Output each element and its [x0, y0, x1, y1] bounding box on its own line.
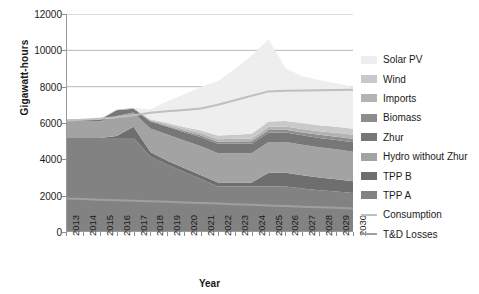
legend-item-tpp-a[interactable]: TPP A [361, 186, 479, 205]
x-tick-label: 2015 [104, 215, 115, 236]
legend-line-icon [361, 233, 377, 235]
x-tick-label: 2023 [239, 215, 250, 236]
legend-label: Consumption [383, 209, 442, 220]
legend-label: T&D Losses [383, 229, 437, 240]
legend-item-imports[interactable]: Imports [361, 89, 479, 108]
x-tick-label: 2020 [188, 215, 199, 236]
legend-label: Biomass [383, 112, 421, 123]
x-tick-label: 2014 [87, 215, 98, 236]
y-tick-label: 4000 [40, 154, 62, 165]
x-tick-label: 2017 [138, 215, 149, 236]
y-tick-label: 6000 [40, 118, 62, 129]
legend-swatch-icon [361, 172, 377, 180]
x-axis-tick-labels: 2013201420152016201720182019202020212022… [66, 236, 353, 280]
y-tick-mark [62, 87, 66, 88]
y-tick-mark [62, 159, 66, 160]
y-tick-label: 8000 [40, 81, 62, 92]
x-tick-label: 2024 [256, 215, 267, 236]
legend-swatch-icon [361, 75, 377, 83]
legend-label: Wind [383, 74, 406, 85]
legend-line-icon [361, 214, 377, 216]
legend-item-tpp-b[interactable]: TPP B [361, 166, 479, 185]
legend-swatch-icon [361, 56, 377, 64]
x-tick-label: 2029 [340, 215, 351, 236]
legend-item-t-d-losses[interactable]: T&D Losses [361, 225, 479, 244]
y-tick-mark [62, 196, 66, 197]
legend-label: TPP A [383, 190, 411, 201]
chart-legend: Solar PVWindImportsBiomassZhurHydro with… [361, 50, 479, 244]
legend-swatch-icon [361, 133, 377, 141]
legend-swatch-icon [361, 153, 377, 161]
legend-label: Hydro without Zhur [383, 151, 467, 162]
chart-container: Gigawatt-hours 0200040006000800010000120… [0, 0, 479, 294]
y-tick-label: 12000 [34, 9, 62, 20]
y-tick-mark [62, 50, 66, 51]
legend-item-consumption[interactable]: Consumption [361, 205, 479, 224]
x-tick-label: 2018 [154, 215, 165, 236]
x-tick-label: 2013 [70, 215, 81, 236]
x-tick-label: 2026 [289, 215, 300, 236]
y-axis-line [66, 14, 67, 232]
x-tick-label: 2019 [171, 215, 182, 236]
legend-item-wind[interactable]: Wind [361, 69, 479, 88]
x-tick-label: 2016 [121, 215, 132, 236]
legend-swatch-icon [361, 191, 377, 199]
x-tick-label: 2027 [306, 215, 317, 236]
x-tick-mark [353, 232, 354, 236]
legend-label: Solar PV [383, 54, 422, 65]
legend-swatch-icon [361, 114, 377, 122]
y-tick-mark [62, 14, 66, 15]
legend-item-hydro-without-zhur[interactable]: Hydro without Zhur [361, 147, 479, 166]
x-tick-label: 2022 [222, 215, 233, 236]
legend-item-zhur[interactable]: Zhur [361, 128, 479, 147]
area-chart-svg [66, 14, 353, 232]
legend-item-biomass[interactable]: Biomass [361, 108, 479, 127]
legend-item-solar-pv[interactable]: Solar PV [361, 50, 479, 69]
legend-label: Zhur [383, 132, 404, 143]
legend-label: Imports [383, 93, 416, 104]
plot-inner [66, 14, 353, 232]
plot-area [66, 14, 353, 232]
y-tick-label: 10000 [34, 45, 62, 56]
y-axis-tick-labels: 020004000600080001000012000 [14, 14, 62, 232]
x-tick-label: 2021 [205, 215, 216, 236]
legend-swatch-icon [361, 94, 377, 102]
y-tick-label: 2000 [40, 190, 62, 201]
legend-label: TPP B [383, 171, 412, 182]
x-tick-label: 2025 [273, 215, 284, 236]
x-axis-title: Year [66, 278, 353, 289]
y-tick-mark [62, 123, 66, 124]
x-tick-label: 2028 [323, 215, 334, 236]
